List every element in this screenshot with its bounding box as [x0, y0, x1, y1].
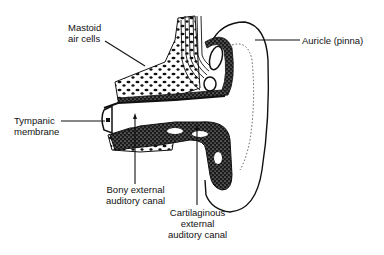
label-bony-canal: Bony external auditory canal: [106, 184, 165, 206]
label-line: auditory canal: [106, 195, 165, 206]
label-line: Bony external: [106, 184, 165, 195]
label-line: air cells: [68, 33, 101, 44]
label-cartilaginous-canal: Cartilaginous external auditory canal: [168, 207, 227, 240]
cartilage-gap-2: [192, 131, 208, 137]
cartilage-gap-3: [214, 152, 222, 164]
cartilage-gap-1: [167, 128, 183, 134]
concha-lower: [204, 77, 216, 91]
label-line: external: [168, 218, 227, 229]
label-line: Cartilaginous: [168, 207, 227, 218]
label-line: Mastoid: [68, 22, 101, 33]
label-auricle-pinna: Auricle (pinna): [302, 35, 363, 46]
label-line: membrane: [14, 126, 59, 137]
label-tympanic-membrane: Tympanic membrane: [14, 115, 59, 137]
label-line: Tympanic: [14, 115, 59, 126]
label-line: auditory canal: [168, 229, 227, 240]
label-line: Auricle (pinna): [302, 35, 363, 46]
label-mastoid-air-cells: Mastoid air cells: [68, 22, 101, 44]
